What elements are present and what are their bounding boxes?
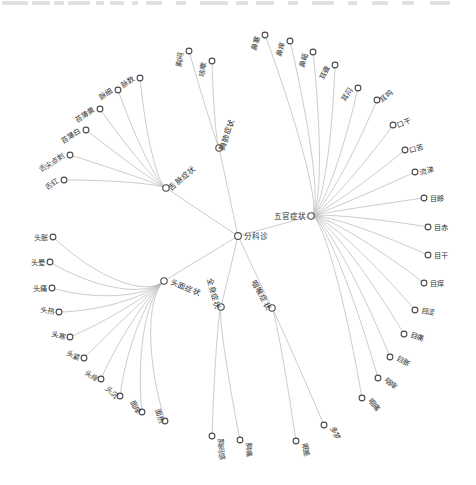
- leaf-node-0-4-dot[interactable]: [115, 87, 121, 93]
- leaf-node-2-6-dot[interactable]: [390, 122, 396, 128]
- leaf-node-5-7[interactable]: 头沉: [103, 384, 123, 400]
- leaf-node-3-1[interactable]: 眠差: [293, 438, 312, 458]
- leaf-node-0-1-dot[interactable]: [67, 152, 73, 158]
- leaf-node-2-15[interactable]: 目胀: [387, 353, 411, 368]
- branch-node-2-dot[interactable]: [308, 213, 314, 219]
- leaf-node-5-5[interactable]: 头紧: [65, 349, 87, 363]
- leaf-node-2-17[interactable]: 咽痛: [359, 395, 382, 413]
- branch-node-2[interactable]: 五官症状: [274, 211, 315, 221]
- leaf-node-1-1-dot[interactable]: [209, 58, 215, 64]
- leaf-node-2-17-dot[interactable]: [359, 395, 365, 401]
- leaf-node-2-2-dot[interactable]: [310, 49, 316, 55]
- link-branch-3-leaf-0: [272, 308, 324, 425]
- leaf-node-2-8[interactable]: 流涕: [412, 165, 435, 176]
- leaf-node-5-6[interactable]: 头痒: [83, 368, 104, 383]
- leaf-node-1-0[interactable]: 胸闷: [174, 48, 192, 68]
- leaf-node-0-2-dot[interactable]: [83, 127, 89, 133]
- leaf-node-2-6[interactable]: 口干: [390, 116, 412, 130]
- link-branch-2-leaf-14: [311, 216, 404, 334]
- leaf-node-2-0[interactable]: 鼻塞: [249, 32, 268, 52]
- leaf-node-4-1-dot[interactable]: [209, 433, 215, 439]
- leaf-node-1-1-label: 咳嗽: [197, 62, 208, 77]
- leaf-node-5-4-dot[interactable]: [67, 334, 73, 340]
- leaf-node-5-6-dot[interactable]: [98, 376, 104, 382]
- leaf-node-1-0-dot[interactable]: [186, 48, 192, 54]
- leaf-node-4-0-dot[interactable]: [237, 437, 243, 443]
- leaf-node-3-0[interactable]: 多梦: [321, 422, 342, 441]
- leaf-node-2-16[interactable]: 咽痒: [375, 375, 399, 391]
- leaf-node-0-4[interactable]: 脉细: [97, 87, 121, 102]
- leaf-node-5-3-dot[interactable]: [56, 309, 62, 315]
- leaf-node-2-14-dot[interactable]: [401, 331, 407, 337]
- leaf-node-0-1[interactable]: 舌尖点刺: [37, 152, 73, 174]
- leaf-node-2-0-dot[interactable]: [262, 32, 268, 38]
- leaf-node-2-12[interactable]: 目痒: [421, 279, 443, 288]
- leaf-node-2-7[interactable]: 口苦: [402, 142, 424, 155]
- leaf-node-0-0[interactable]: 舌红: [43, 177, 67, 192]
- link-branch-2-leaf-12: [311, 216, 424, 283]
- leaf-node-5-9[interactable]: 面热: [153, 408, 168, 424]
- leaf-node-0-0-dot[interactable]: [61, 177, 67, 183]
- leaf-node-3-0-dot[interactable]: [321, 422, 327, 428]
- link-branch-5-leaf-9: [151, 281, 165, 421]
- leaf-node-2-8-dot[interactable]: [412, 169, 418, 175]
- leaf-node-5-1-label: 头晕: [31, 258, 45, 267]
- leaf-node-3-1-label: 眠差: [300, 442, 312, 458]
- leaf-node-2-5[interactable]: 耳鸣: [374, 88, 394, 104]
- leaf-node-0-3[interactable]: 苔薄黄: [73, 106, 103, 125]
- leaf-node-2-7-label: 口苦: [409, 142, 425, 155]
- leaf-node-5-1-dot[interactable]: [47, 259, 53, 265]
- leaf-node-2-16-dot[interactable]: [375, 375, 381, 381]
- leaf-node-5-2[interactable]: 头痛: [33, 284, 55, 293]
- leaf-node-4-0[interactable]: 胸痛: [237, 437, 254, 457]
- leaf-node-2-13[interactable]: 目涩: [412, 306, 435, 317]
- leaf-node-2-10[interactable]: 目赤: [425, 223, 447, 232]
- leaf-node-5-3[interactable]: 头热: [39, 305, 62, 316]
- branch-node-5[interactable]: 头面症状: [161, 276, 202, 297]
- branch-node-3[interactable]: 咽喉症状: [250, 279, 275, 312]
- leaf-node-2-11-dot[interactable]: [425, 252, 431, 258]
- leaf-node-2-16-label: 咽痒: [382, 375, 399, 391]
- leaf-node-5-8[interactable]: 面痒: [128, 399, 145, 416]
- leaf-node-2-4-dot[interactable]: [355, 85, 361, 91]
- branch-node-4[interactable]: 全身症状: [205, 277, 224, 311]
- leaf-node-2-2[interactable]: 鼻衄: [297, 49, 316, 69]
- leaf-node-5-2-dot[interactable]: [49, 285, 55, 291]
- leaf-node-2-1[interactable]: 鼻痒: [274, 38, 293, 58]
- branch-node-1[interactable]: 胸肺症状: [216, 118, 236, 152]
- leaf-node-2-14[interactable]: 目痛: [401, 330, 425, 343]
- branch-node-5-dot[interactable]: [161, 278, 167, 284]
- leaf-node-2-7-dot[interactable]: [402, 147, 408, 153]
- link-branch-2-leaf-17: [311, 216, 362, 398]
- root-node-dot[interactable]: [235, 233, 242, 240]
- leaf-node-4-1[interactable]: 胸闷感: [209, 433, 227, 460]
- root-node[interactable]: 分科诊: [235, 231, 268, 241]
- leaf-node-5-5-dot[interactable]: [81, 355, 87, 361]
- leaf-node-2-1-dot[interactable]: [287, 38, 293, 44]
- leaf-node-2-15-dot[interactable]: [387, 354, 393, 360]
- leaf-node-0-5[interactable]: 脉数: [119, 75, 143, 90]
- branch-node-2-label: 五官症状: [274, 211, 306, 221]
- leaf-node-5-0-dot[interactable]: [50, 234, 56, 240]
- leaf-node-2-3-dot[interactable]: [332, 62, 338, 68]
- leaf-node-5-1[interactable]: 头晕: [31, 258, 53, 267]
- leaf-node-2-0-label: 鼻塞: [249, 36, 262, 52]
- leaf-node-2-10-dot[interactable]: [425, 224, 431, 230]
- leaf-node-0-3-dot[interactable]: [97, 106, 103, 112]
- leaf-node-2-11[interactable]: 目干: [425, 251, 447, 260]
- root-node-label: 分科诊: [244, 231, 268, 241]
- leaf-node-5-4[interactable]: 头寒: [50, 329, 72, 342]
- leaf-node-0-2[interactable]: 苔薄白: [59, 127, 89, 146]
- leaf-node-2-9-dot[interactable]: [421, 195, 427, 201]
- branch-node-0[interactable]: 舌脉症状: [163, 164, 197, 192]
- leaf-node-5-0[interactable]: 头胀: [34, 233, 56, 242]
- leaf-node-2-13-dot[interactable]: [412, 307, 418, 313]
- leaf-node-0-5-dot[interactable]: [137, 75, 143, 81]
- link-branch-5-leaf-3: [59, 281, 164, 312]
- leaf-node-2-4[interactable]: 耳闷: [339, 85, 361, 103]
- leaf-node-2-12-dot[interactable]: [421, 280, 427, 286]
- leaf-node-2-9[interactable]: 目眵: [421, 194, 443, 203]
- leaf-node-3-1-dot[interactable]: [293, 438, 299, 444]
- leaf-node-5-6-label: 头痒: [83, 368, 100, 383]
- leaf-node-5-4-label: 头寒: [50, 329, 66, 342]
